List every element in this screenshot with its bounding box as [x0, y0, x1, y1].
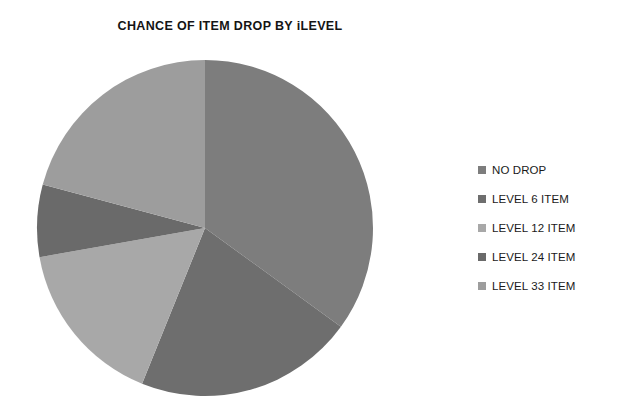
legend-item[interactable]: LEVEL 33 ITEM: [478, 271, 610, 300]
legend-item[interactable]: NO DROP: [478, 155, 610, 184]
square-swatch-icon: [478, 166, 486, 174]
legend-item[interactable]: LEVEL 24 ITEM: [478, 242, 610, 271]
chart-title: CHANCE OF ITEM DROP BY iLEVEL: [0, 19, 460, 33]
pie-plot-area: [30, 48, 385, 408]
chart-legend: NO DROPLEVEL 6 ITEMLEVEL 12 ITEMLEVEL 24…: [478, 155, 610, 300]
square-swatch-icon: [478, 224, 486, 232]
square-swatch-icon: [478, 282, 486, 290]
square-swatch-icon: [478, 195, 486, 203]
legend-item-label: LEVEL 24 ITEM: [492, 251, 575, 263]
legend-item-label: NO DROP: [492, 164, 546, 176]
legend-item[interactable]: LEVEL 6 ITEM: [478, 184, 610, 213]
legend-item-label: LEVEL 6 ITEM: [492, 193, 569, 205]
legend-item-label: LEVEL 33 ITEM: [492, 280, 575, 292]
pie-slice-group: [37, 60, 373, 396]
pie-chart-figure: CHANCE OF ITEM DROP BY iLEVEL NO DROPLEV…: [0, 0, 617, 410]
pie-svg: [30, 48, 385, 408]
square-swatch-icon: [478, 253, 486, 261]
legend-item[interactable]: LEVEL 12 ITEM: [478, 213, 610, 242]
legend-item-label: LEVEL 12 ITEM: [492, 222, 575, 234]
